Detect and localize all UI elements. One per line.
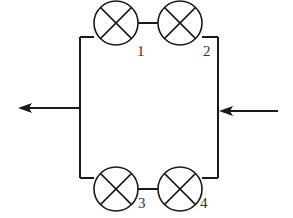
- lamp-4-label: 4: [200, 195, 208, 211]
- circuit-diagram: 1 2 3 4: [0, 0, 293, 218]
- lamp-2-label: 2: [203, 43, 211, 59]
- lamp-3-label: 3: [138, 195, 146, 211]
- current-in-arrow-icon: [219, 106, 278, 116]
- lamp-1-icon: [94, 1, 138, 45]
- lamp-1-label: 1: [137, 43, 145, 59]
- current-out-arrow-icon: [18, 103, 80, 113]
- lamp-3-icon: [94, 167, 138, 211]
- lamp-2-icon: [158, 1, 202, 45]
- lamp-4-icon: [158, 167, 202, 211]
